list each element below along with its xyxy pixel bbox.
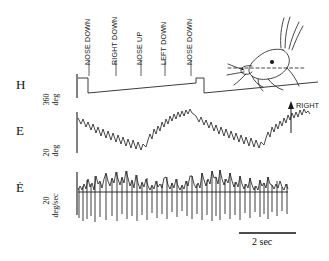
edot-envelope — [78, 170, 288, 190]
trace-letter-edot: Ė — [16, 180, 24, 196]
event-label-left-down: LEFT DOWN — [160, 22, 168, 65]
edot-scale-unit: deg/sec — [52, 193, 60, 217]
eye-velocity-trace — [77, 170, 288, 222]
rabbit-head-icon — [227, 17, 305, 91]
event-label-nose-down-1: NOSE DOWN — [84, 19, 92, 65]
eye-position-trace — [77, 109, 310, 153]
event-label-nose-down-2: NOSE DOWN — [186, 19, 194, 65]
h-trace-line — [78, 78, 318, 93]
head-position-trace — [77, 74, 318, 98]
e-scale-unit: deg — [52, 145, 60, 157]
time-scale-label: 2 sec — [252, 236, 272, 247]
right-direction-label: RIGHT — [296, 101, 319, 110]
trace-letter-h: H — [16, 77, 25, 93]
edot-spikes — [79, 170, 287, 222]
trace-letter-e: E — [16, 123, 24, 139]
event-label-right-down: RIGHT DOWN — [111, 17, 119, 65]
h-scale-unit: deg — [52, 94, 60, 106]
e-trace-line — [78, 109, 310, 150]
event-label-nose-up: NOSE UP — [136, 32, 144, 65]
